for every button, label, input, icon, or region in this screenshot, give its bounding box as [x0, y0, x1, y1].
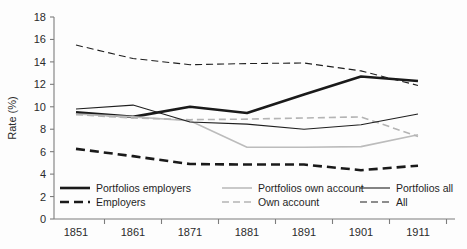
legend-entry-portfolios-own-account: Portfolios own account — [222, 182, 364, 194]
y-axis: 024681012141618 — [34, 11, 54, 225]
series-line-own-account — [76, 115, 418, 137]
x-tick-label: 1881 — [235, 226, 259, 238]
y-tick-label: 8 — [40, 123, 46, 135]
line-chart: 024681012141618 185118611871188118911901… — [0, 0, 467, 249]
legend-label-portfolios-employers: Portfolios employers — [96, 182, 191, 194]
series-lines — [76, 45, 418, 170]
x-tick-label: 1901 — [349, 226, 373, 238]
x-tick-label: 1861 — [121, 226, 145, 238]
chart-legend: Portfolios employersEmployersPortfolios … — [60, 182, 453, 208]
y-tick-label: 10 — [34, 101, 46, 113]
y-axis-title: Rate (%) — [6, 96, 18, 139]
chart-canvas: 024681012141618 185118611871188118911901… — [0, 0, 467, 249]
series-line-all — [76, 45, 418, 85]
y-tick-label: 18 — [34, 11, 46, 23]
legend-entry-employers: Employers — [60, 196, 146, 208]
y-tick-label: 0 — [40, 213, 46, 225]
x-tick-label: 1891 — [292, 226, 316, 238]
legend-entry-portfolios-employers: Portfolios employers — [60, 182, 191, 194]
y-tick-label: 6 — [40, 146, 46, 158]
legend-label-portfolios-all: Portfolios all — [396, 182, 453, 194]
series-line-portfolios-employers — [76, 76, 418, 116]
y-tick-label: 14 — [34, 56, 46, 68]
legend-entry-portfolios-all: Portfolios all — [360, 182, 453, 194]
y-tick-label: 4 — [40, 168, 46, 180]
x-tick-label: 1871 — [178, 226, 202, 238]
y-tick-label: 12 — [34, 78, 46, 90]
legend-label-portfolios-own-account: Portfolios own account — [258, 182, 364, 194]
legend-label-all: All — [396, 196, 408, 208]
series-line-employers — [76, 149, 418, 170]
x-tick-label: 1851 — [64, 226, 88, 238]
x-tick-label: 1911 — [406, 226, 430, 238]
legend-entry-own-account: Own account — [222, 196, 319, 208]
legend-entry-all: All — [360, 196, 408, 208]
y-tick-label: 2 — [40, 191, 46, 203]
y-tick-label: 16 — [34, 33, 46, 45]
legend-label-employers: Employers — [96, 196, 146, 208]
legend-label-own-account: Own account — [258, 196, 319, 208]
x-axis: 1851186118711881189119011911 — [54, 219, 455, 238]
